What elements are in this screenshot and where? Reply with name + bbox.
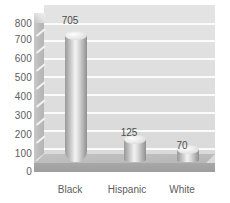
value-label-white: 70 <box>167 140 197 151</box>
plot-wall-top-bevel <box>34 13 45 23</box>
y-axis: 800 700 600 500 400 300 200 100 0 <box>2 0 32 203</box>
value-label-hispanic: 125 <box>114 127 144 138</box>
y-tick-label: 500 <box>4 73 32 83</box>
plot-side-wall <box>34 14 44 172</box>
y-tick-label: 700 <box>4 35 32 45</box>
plot-floor-front <box>34 163 215 172</box>
value-label-black: 705 <box>55 15 85 26</box>
y-tick-label: 400 <box>4 92 32 102</box>
bar-black-cap <box>65 31 87 40</box>
category-label-hispanic: Hispanic <box>99 184 155 195</box>
y-tick-label: 600 <box>4 54 32 64</box>
y-tick-label: 300 <box>4 111 32 121</box>
y-tick-label: 0 <box>4 167 32 177</box>
y-tick-label: 200 <box>4 130 32 140</box>
bar-chart: 800 700 600 500 400 300 200 100 0 <box>0 0 230 203</box>
category-label-black: Black <box>45 184 95 195</box>
y-tick-label: 100 <box>4 149 32 159</box>
bar-black[interactable] <box>65 31 87 162</box>
category-label-white: White <box>157 184 207 195</box>
bar-black-body <box>65 35 87 162</box>
plot-area <box>34 14 215 180</box>
y-tick-label: 800 <box>4 19 32 29</box>
bar-hispanic[interactable] <box>124 135 146 162</box>
